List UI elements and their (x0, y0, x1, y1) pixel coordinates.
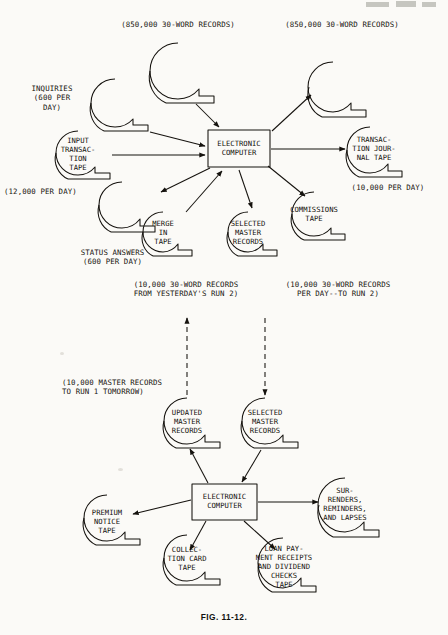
processor-label-bottom: ELECTRONIC COMPUTER (192, 492, 257, 511)
arrow-computer-to-collection-card (190, 521, 206, 550)
label-master-out-count: (850,000 30-WORD RECORDS) (252, 20, 432, 29)
tape-symbol-commissions-arc (291, 214, 304, 240)
tape-symbol-master-in-arc (149, 71, 166, 103)
figure-canvas: (850,000 30-WORD RECORDS) (850,000 30-WO… (0, 0, 448, 635)
label-selected-note: (10,000 30-WORD RECORDS PER DAY--TO RUN … (250, 280, 426, 299)
tape-symbol-transaction-journal-arc (346, 150, 359, 177)
arrow-computer-to-commissions (268, 166, 305, 196)
arrow-computer-to-updated-master (190, 449, 208, 483)
label-master-in-count: (850,000 30-WORD RECORDS) (88, 20, 268, 29)
label-status-answers: STATUS ANSWERS (600 PER DAY) (55, 248, 170, 267)
tape-symbol-selected-master-2-arc (241, 421, 254, 448)
arrow-computer-to-premium-notice (133, 500, 191, 514)
tape-symbol-loan-payment (258, 538, 316, 592)
label-input-rate: (12,000 PER DAY) (4, 187, 124, 196)
arrow-computer-to-selected-master (239, 170, 252, 208)
tape-symbol-surrenders-arc (318, 505, 333, 537)
tape-symbol-selected-master (228, 212, 277, 256)
tape-symbol-status-answers-arc (98, 205, 111, 232)
label-master-tomorrow: (10,000 MASTER RECORDS TO RUN 1 TOMORROW… (62, 378, 202, 397)
tape-symbol-updated-master-arc (163, 421, 176, 448)
tape-symbol-premium-notice-arc (83, 518, 96, 545)
arrow-inquiry-to-computer (150, 132, 205, 146)
arrow-selected-master-to-computer (242, 450, 261, 482)
arrow-computer-to-loan-payment (244, 521, 275, 549)
tape-symbol-collection-card-arc (163, 558, 176, 585)
tape-symbol-selected-master-2 (242, 398, 298, 448)
tape-symbol-master-in (150, 43, 214, 103)
tape-symbol-commissions (292, 192, 345, 240)
tape-symbol-input-transaction (56, 131, 110, 179)
tape-symbol-collection-card (164, 535, 220, 585)
tape-symbol-premium-notice (84, 495, 140, 545)
label-merge-note: (10,000 30-WORD RECORDS FROM YESTERDAY'S… (96, 280, 276, 299)
arrow-computer-to-master-out (272, 95, 311, 131)
tape-symbol-updated-master (164, 398, 220, 448)
tape-symbol-master-out (308, 62, 366, 117)
arrow-master-in-to-computer (196, 104, 219, 127)
tape-symbol-master-out-arc (308, 87, 322, 117)
tape-symbol-loan-payment-arc (258, 563, 272, 592)
tape-symbol-inquiry (91, 79, 148, 131)
tape-symbol-surrenders (318, 478, 379, 537)
arrow-computer-to-status-answers (161, 168, 210, 192)
processor-label-top: ELECTRONIC COMPUTER (208, 139, 270, 158)
figure-caption: FIG. 11-12. (0, 612, 448, 622)
label-journal-rate: (10,000 PER DAY) (333, 183, 443, 192)
label-inquiries: INQUIRIES (600 PER DAY) (14, 84, 90, 112)
tape-symbol-input-transaction-arc (55, 153, 68, 179)
tape-symbol-inquiry-arc (90, 103, 104, 131)
tape-symbol-transaction-journal (347, 127, 402, 177)
